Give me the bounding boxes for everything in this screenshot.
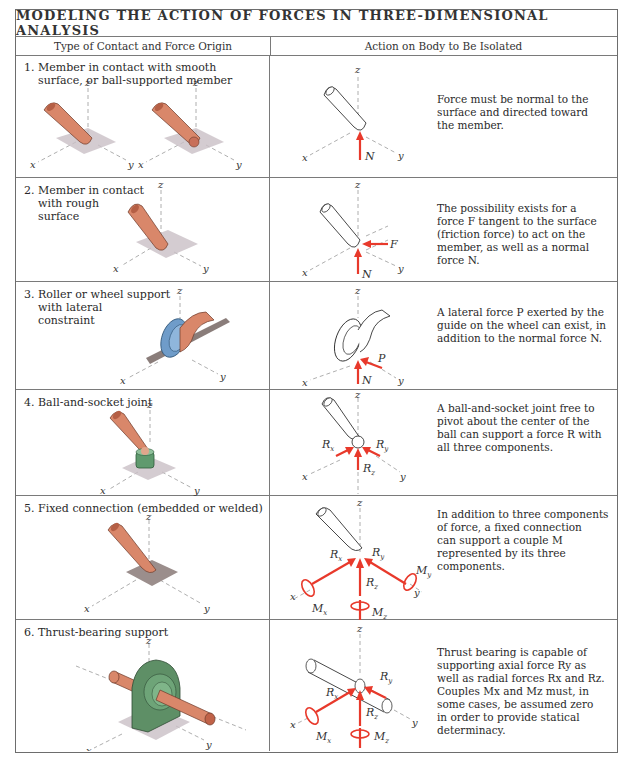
thrust-bearing-fbd: z x y Rx Ry Rz Mx Mz (270, 620, 434, 751)
svg-text:N: N (361, 268, 372, 281)
header-contact-type: Type of Contact and Force Origin (16, 36, 271, 56)
fixed-connection-illustration: z x y (56, 514, 270, 620)
fixed-connection-fbd: z x y Rx Ry Rz Mx My Mz (270, 496, 434, 620)
table-row-1: 1.Member in contact with smooth surface,… (16, 55, 617, 178)
svg-text:x: x (84, 603, 90, 614)
ball-socket-fbd: z x y Rx Ry Rz (270, 390, 430, 496)
action-description: In addition to three components of force… (437, 508, 613, 573)
svg-text:x: x (138, 159, 144, 170)
svg-text:Rz: Rz (365, 576, 378, 591)
svg-text:z: z (356, 623, 363, 634)
svg-text:N: N (361, 374, 372, 387)
svg-text:y: y (203, 603, 210, 614)
svg-text:z: z (354, 179, 361, 190)
svg-text:Rz: Rz (362, 462, 375, 477)
svg-text:z: z (84, 80, 91, 88)
svg-text:Rx: Rx (321, 438, 334, 453)
svg-text:x: x (86, 745, 92, 751)
svg-text:x: x (120, 375, 126, 386)
svg-text:y: y (127, 159, 134, 170)
action-cell: z x y Rx Ry Rz Mx Mz Thrust bearing is c… (270, 620, 617, 751)
svg-text:y: y (397, 263, 404, 274)
table-row-2: 2.Member in contact with rough surface z… (16, 178, 617, 282)
svg-text:x: x (302, 471, 308, 482)
table-row-3: 3.Roller or wheel support with lateral c… (16, 282, 617, 390)
svg-text:x: x (290, 719, 296, 730)
action-cell: z x y Rx Ry Rz Mx My Mz In addition to t… (270, 496, 617, 619)
roller-support-illustration: z x y (96, 282, 270, 390)
svg-text:x: x (290, 591, 296, 602)
contact-cell: 4.Ball-and-socket joint z x y (16, 390, 270, 495)
svg-text:x: x (302, 267, 308, 278)
svg-text:y: y (399, 471, 406, 482)
svg-text:Ry: Ry (375, 438, 389, 453)
svg-text:y: y (235, 159, 242, 170)
svg-text:Mz: Mz (371, 606, 387, 620)
svg-text:Rx: Rx (329, 548, 342, 563)
svg-text:y: y (202, 263, 209, 274)
table-title: MODELING THE ACTION OF FORCES IN THREE-D… (16, 10, 617, 37)
svg-text:Mz: Mz (373, 730, 389, 745)
svg-text:x: x (100, 485, 106, 496)
forces-table: MODELING THE ACTION OF FORCES IN THREE-D… (15, 9, 618, 753)
table-row-4: 4.Ball-and-socket joint z x y (16, 390, 617, 496)
action-description: The possibility exists for a force F tan… (437, 202, 613, 267)
svg-text:z: z (354, 285, 361, 296)
rough-surface-illustration: z x y (96, 178, 270, 282)
contact-cell: 5.Fixed connection (embedded or welded) … (16, 496, 270, 619)
contact-cell: 6.Thrust-bearing support z x y (16, 620, 270, 751)
svg-text:x: x (302, 152, 308, 163)
svg-text:y: y (397, 375, 404, 386)
svg-text:y: y (397, 150, 404, 161)
svg-text:Rx: Rx (325, 686, 338, 701)
action-cell: z x y F N The possibility exists for a f… (270, 178, 617, 281)
svg-text:x: x (30, 159, 36, 170)
table-row-6: 6.Thrust-bearing support z x y (16, 620, 617, 751)
svg-text:y: y (411, 717, 418, 728)
svg-text:z: z (356, 497, 363, 508)
smooth-surface-fbd: z x y N (270, 55, 430, 178)
svg-text:Ry: Ry (371, 546, 385, 561)
svg-text:z: z (145, 514, 152, 522)
svg-text:z: z (145, 638, 152, 646)
svg-text:z: z (192, 80, 199, 88)
action-description: A ball-and-socket joint free to pivot ab… (437, 402, 613, 454)
ball-socket-illustration: z x y (86, 400, 270, 496)
contact-cell: 1.Member in contact with smooth surface,… (16, 55, 270, 177)
action-description: Thrust bearing is capable of supporting … (437, 646, 613, 737)
action-description: A lateral force P exerted by the guide o… (437, 306, 613, 345)
action-description: Force must be normal to the surface and … (437, 93, 613, 132)
smooth-surface-illustration: z x y z x y (16, 80, 270, 178)
rough-surface-fbd: z x y F N (270, 178, 430, 282)
svg-text:y: y (205, 739, 212, 750)
svg-text:x: x (302, 377, 308, 388)
contact-cell: 2.Member in contact with rough surface z… (16, 178, 270, 281)
svg-text:Mx: Mx (311, 602, 327, 617)
svg-text:F: F (389, 238, 398, 251)
svg-text:N: N (364, 150, 375, 163)
roller-support-fbd: z x y P N (270, 282, 430, 390)
svg-text:z: z (354, 390, 361, 400)
svg-text:x: x (113, 263, 119, 274)
svg-text:y: y (193, 485, 200, 496)
svg-text:y: y (413, 587, 420, 598)
svg-text:y: y (219, 371, 226, 382)
svg-text:Mx: Mx (315, 730, 331, 745)
svg-text:Ry: Ry (379, 670, 393, 685)
contact-cell: 3.Roller or wheel support with lateral c… (16, 282, 270, 389)
action-cell: z x y Rx Ry Rz A ball-and-socket joint f… (270, 390, 617, 495)
svg-text:z: z (176, 285, 183, 296)
thrust-bearing-illustration: z x y (56, 638, 270, 751)
action-cell: z x y N Force must be normal to the surf… (270, 55, 617, 177)
action-cell: z x y P N A lateral force P exerted by t… (270, 282, 617, 389)
svg-text:P: P (377, 352, 386, 365)
header-action: Action on Body to Be Isolated (270, 36, 617, 56)
svg-text:My: My (415, 564, 432, 579)
svg-text:z: z (146, 400, 153, 410)
table-row-5: 5.Fixed connection (embedded or welded) … (16, 496, 617, 620)
svg-text:z: z (354, 64, 361, 75)
svg-text:z: z (157, 179, 164, 190)
